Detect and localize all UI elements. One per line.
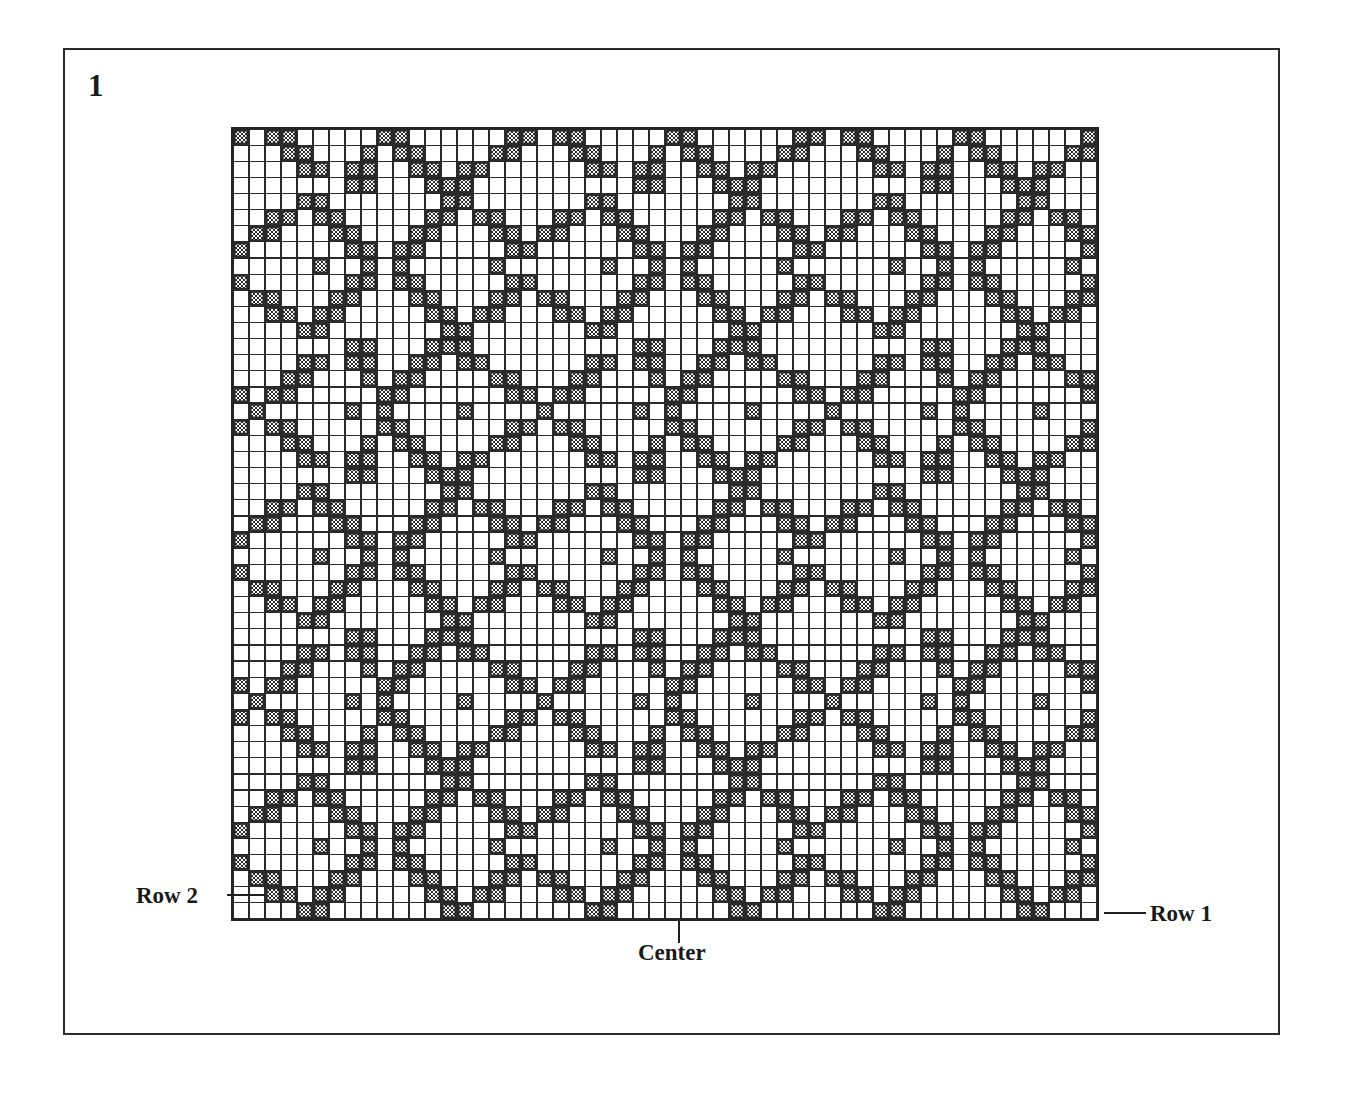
chart-area <box>231 127 1099 921</box>
leader-line-row2 <box>227 894 265 896</box>
figure-number: 1 <box>88 70 104 101</box>
stitch-chart-grid[interactable] <box>231 127 1099 921</box>
annotation-row-2: Row 2 <box>136 884 198 907</box>
figure-page: 1 Row 2 Row 1 Center <box>0 0 1345 1097</box>
annotation-center: Center <box>638 941 706 964</box>
stitch-chart-svg <box>233 129 1097 919</box>
leader-line-row1 <box>1104 912 1146 914</box>
annotation-row-1: Row 1 <box>1150 902 1212 925</box>
